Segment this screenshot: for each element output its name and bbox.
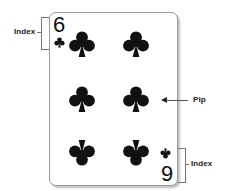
index-rank-top: 6 xyxy=(53,15,65,35)
index-club-icon-top xyxy=(54,37,65,48)
index-leader-bottom xyxy=(185,164,189,165)
index-label-bottom: Index xyxy=(191,159,212,168)
playing-card: 6 6 xyxy=(49,12,178,186)
index-label-top: Index xyxy=(14,27,35,36)
index-rank-bottom: 6 xyxy=(161,163,173,183)
pip-club-icon xyxy=(122,139,150,167)
pip-label: Pip xyxy=(193,95,206,104)
pip-club-icon xyxy=(122,85,150,113)
index-bracket-top xyxy=(41,17,49,50)
pip-leader-line xyxy=(166,100,188,101)
pip-club-icon xyxy=(122,30,150,58)
pip-club-icon xyxy=(68,139,96,167)
pip-club-icon xyxy=(68,85,96,113)
index-bracket-bottom xyxy=(178,148,186,183)
pip-club-icon xyxy=(68,30,96,58)
index-club-icon-bottom xyxy=(160,148,171,159)
